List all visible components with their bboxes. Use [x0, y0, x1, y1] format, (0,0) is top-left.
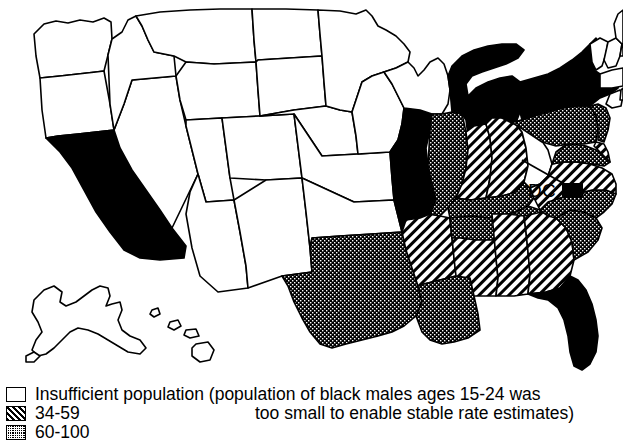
state-LA: [416, 276, 480, 344]
legend-swatch-hatch-icon: [6, 406, 26, 421]
legend-item-60-100: 60-100: [6, 423, 90, 440]
legend-label-insufficient: Insufficient population (population of b…: [35, 385, 541, 404]
legend-swatch-insufficient-icon: [6, 387, 26, 402]
dc-label: DC: [528, 181, 556, 200]
state-HI-4: [192, 342, 214, 362]
state-CO: [222, 114, 302, 180]
legend-label-60-100: 60-100: [35, 423, 90, 440]
state-AK: [32, 286, 146, 356]
state-WA: [34, 18, 112, 78]
legend: Insufficient population (population of b…: [0, 382, 623, 440]
legend-label-34-59: 34-59: [35, 404, 80, 423]
state-HI-3: [184, 329, 199, 338]
legend-item-insufficient: Insufficient population (population of b…: [6, 385, 541, 404]
state-HI-1: [150, 308, 160, 317]
state-OR: [40, 71, 114, 138]
state-HI-2: [168, 320, 181, 330]
dc-swatch: [562, 183, 583, 198]
legend-swatch-stipple-icon: [6, 425, 26, 440]
legend-item-34-59: 34-59: [6, 404, 80, 423]
legend-note-continuation: too small to enable stable rate estimate…: [255, 404, 574, 423]
state-AL: [492, 214, 530, 296]
state-NM: [234, 178, 312, 288]
us-choropleth-figure: DC Insufficient population (population o…: [0, 0, 623, 440]
state-ND: [252, 9, 322, 62]
state-WY: [176, 62, 260, 120]
state-MA: [600, 68, 623, 88]
dc-callout: DC: [528, 181, 583, 200]
